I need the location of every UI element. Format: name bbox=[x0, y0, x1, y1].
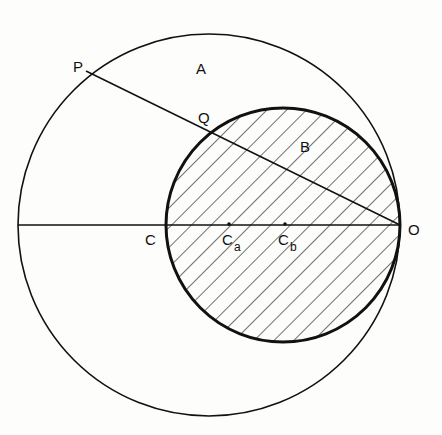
label-ca-subscript: a bbox=[234, 240, 241, 254]
label-cb-subscript: b bbox=[290, 240, 297, 254]
label-b: B bbox=[300, 138, 310, 155]
point-ca bbox=[227, 222, 231, 226]
label-c: C bbox=[145, 231, 156, 248]
label-cb: C bbox=[278, 231, 289, 248]
label-o: O bbox=[408, 221, 420, 238]
label-ca: C bbox=[222, 231, 233, 248]
label-a: A bbox=[196, 60, 206, 77]
circles-diagram: P A Q B C C a C b O bbox=[0, 0, 442, 435]
diagram-canvas: P A Q B C C a C b O bbox=[0, 0, 442, 435]
label-p: P bbox=[73, 58, 83, 75]
point-cb bbox=[283, 222, 287, 226]
label-q: Q bbox=[198, 109, 210, 126]
